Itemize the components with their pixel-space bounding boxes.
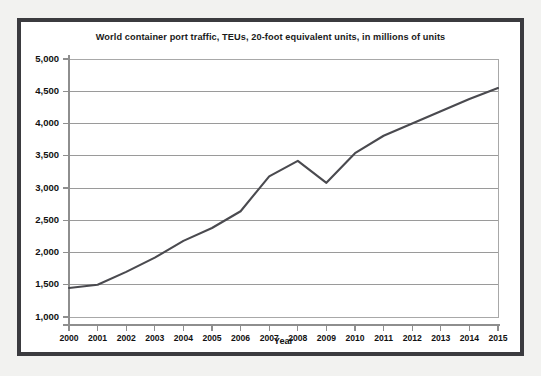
x-tick-label-2011: 2011 <box>374 333 393 343</box>
gridlines-group <box>69 59 498 317</box>
x-tick-label-2012: 2012 <box>403 333 422 343</box>
y-tick-label-3500: 3,500 <box>35 149 59 160</box>
x-axis-title: Year <box>274 336 294 346</box>
x-tick-label-2010: 2010 <box>345 333 364 343</box>
y-tick-label-5000: 5,000 <box>35 53 59 64</box>
x-tick-label-2006: 2006 <box>231 333 250 343</box>
chart-inner: World container port traffic, TEUs, 20-f… <box>21 22 520 352</box>
y-tick-label-4000: 4,000 <box>35 117 59 128</box>
y-axis-tick-labels: 1,0001,5002,0002,5003,0003,5004,0004,500… <box>35 53 59 322</box>
axis-ticks-group <box>63 59 498 331</box>
figure-root: World container port traffic, TEUs, 20-f… <box>0 0 541 376</box>
y-tick-label-2500: 2,500 <box>35 214 59 225</box>
line-chart-plot: 1,0001,5002,0002,5003,0003,5004,0004,500… <box>21 22 520 352</box>
x-tick-label-2014: 2014 <box>460 333 479 343</box>
x-tick-label-2000: 2000 <box>59 333 78 343</box>
y-tick-label-2000: 2,000 <box>35 246 59 257</box>
x-tick-label-2004: 2004 <box>174 333 193 343</box>
x-tick-label-2002: 2002 <box>117 333 136 343</box>
x-tick-label-2009: 2009 <box>317 333 336 343</box>
y-tick-label-1500: 1,500 <box>35 278 59 289</box>
x-tick-label-2013: 2013 <box>431 333 450 343</box>
x-tick-label-2003: 2003 <box>145 333 164 343</box>
x-tick-label-2015: 2015 <box>488 333 507 343</box>
chart-frame: World container port traffic, TEUs, 20-f… <box>17 18 524 356</box>
x-tick-label-2001: 2001 <box>88 333 107 343</box>
y-tick-label-4500: 4,500 <box>35 85 59 96</box>
y-tick-label-1000: 1,000 <box>35 311 59 322</box>
x-tick-label-2005: 2005 <box>202 333 221 343</box>
y-tick-label-3000: 3,000 <box>35 182 59 193</box>
